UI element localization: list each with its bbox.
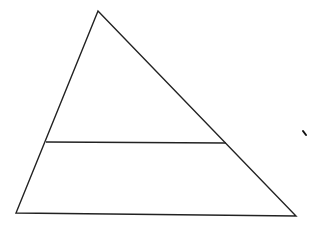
triangle-diagram — [0, 0, 316, 227]
horizontal-segment — [46, 142, 226, 143]
triangle — [16, 11, 296, 216]
stray-mark — [303, 131, 306, 135]
